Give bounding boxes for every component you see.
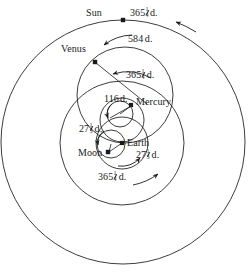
earth-year-arrow bbox=[133, 174, 158, 185]
moon-left-fraction: 13 bbox=[90, 124, 94, 133]
venus-synodic-whole: 584 bbox=[128, 33, 143, 44]
moon-right-denominator: 3 bbox=[147, 154, 150, 160]
label-venus-synodic: 584d. bbox=[128, 34, 153, 44]
moon-left-unit: d. bbox=[95, 123, 103, 134]
label-mercury: Mercury bbox=[136, 97, 171, 107]
label-earth-year: 36514d. bbox=[98, 172, 126, 182]
earth-year-fraction: 14 bbox=[114, 172, 118, 181]
sun-direction-arrow bbox=[176, 22, 196, 32]
sun-period-unit: d. bbox=[150, 7, 158, 18]
orbit-diagram-svg bbox=[0, 0, 249, 278]
sun-period-denominator: 4 bbox=[146, 12, 149, 18]
venus-synodic-unit: d. bbox=[145, 33, 153, 44]
sun-period-whole: 365 bbox=[130, 7, 145, 18]
venus-year-unit: d. bbox=[147, 69, 155, 80]
label-venus: Venus bbox=[61, 44, 86, 54]
venus-year-fraction: 14 bbox=[142, 70, 146, 79]
earth-year-whole: 365 bbox=[98, 171, 113, 182]
venus-marker-dot bbox=[93, 60, 97, 64]
mercury-epicycle-radius-2 bbox=[110, 106, 131, 118]
label-moon-sidereal-right: 2713d. bbox=[136, 150, 159, 160]
label-sun-period: 36514d. bbox=[130, 8, 158, 18]
sun-marker-dot bbox=[121, 18, 125, 22]
moon-left-whole: 27 bbox=[79, 123, 89, 134]
label-sun: Sun bbox=[86, 8, 102, 18]
label-mercury-synodic: 116d. bbox=[104, 94, 128, 104]
earth-marker-dot bbox=[120, 141, 124, 145]
sun-period-fraction: 14 bbox=[146, 8, 150, 17]
venus-year-whole: 365 bbox=[126, 69, 141, 80]
earth-year-unit: d. bbox=[119, 171, 127, 182]
venus-year-denominator: 4 bbox=[142, 74, 145, 80]
moon-left-denominator: 3 bbox=[90, 128, 93, 134]
label-venus-year: 36514d. bbox=[126, 70, 154, 80]
mercury-synodic-arrow bbox=[107, 104, 112, 118]
moon-right-unit: d. bbox=[152, 149, 160, 160]
moon-marker-dot bbox=[106, 150, 110, 154]
moon-right-fraction: 13 bbox=[147, 150, 151, 159]
earth-year-denominator: 4 bbox=[114, 176, 117, 182]
mercury-synodic-unit: d. bbox=[120, 93, 128, 104]
label-moon: Moon bbox=[78, 148, 102, 158]
figure-canvas: Sun 36514d. Venus 584d. 36514d. 116d. Me… bbox=[0, 0, 249, 278]
moon-right-whole: 27 bbox=[136, 149, 146, 160]
label-earth: Earth bbox=[127, 138, 149, 148]
mercury-synodic-whole: 116 bbox=[104, 93, 119, 104]
mercury-marker-dot bbox=[129, 103, 133, 107]
label-moon-sidereal-left: 2713d. bbox=[79, 124, 102, 134]
